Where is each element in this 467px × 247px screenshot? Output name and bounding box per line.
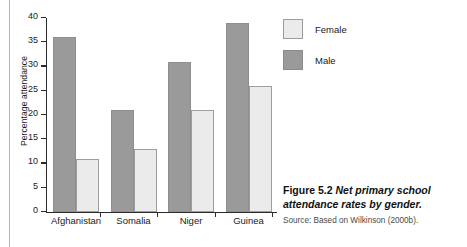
bar-female-niger	[191, 110, 214, 212]
x-axis-line	[46, 212, 277, 213]
y-axis-label: Percentage attendance	[19, 31, 29, 171]
y-axis-tick: 35	[41, 41, 46, 42]
bar-female-guinea	[249, 86, 272, 212]
bar-male-afghanistan	[53, 37, 76, 212]
y-axis-tick: 5	[41, 187, 46, 188]
y-axis-tick-label: 20	[28, 108, 38, 119]
chart-legend: FemaleMale	[283, 19, 347, 81]
bar-male-niger	[168, 62, 191, 212]
y-axis-tick: 40	[41, 17, 46, 18]
y-axis-tick-label: 30	[28, 59, 38, 70]
bar-male-somalia	[111, 110, 134, 212]
legend-item-male: Male	[283, 50, 347, 70]
y-axis-tick-label: 15	[28, 132, 38, 143]
y-axis-tick-label: 35	[28, 35, 38, 46]
legend-item-female: Female	[283, 19, 347, 39]
bar-female-afghanistan	[76, 159, 99, 212]
y-axis-tick: 25	[41, 90, 46, 91]
figure-caption: Figure 5.2 Net primary school attendance…	[283, 184, 463, 226]
caption-title: Figure 5.2 Net primary school attendance…	[283, 184, 463, 211]
y-axis-tick-label: 10	[28, 156, 38, 167]
y-axis-tick: 10	[41, 162, 46, 163]
legend-label: Male	[315, 55, 336, 66]
y-axis-tick-label: 40	[28, 11, 38, 22]
y-axis-tick: 30	[41, 65, 46, 66]
plot-area: 0510152025303540	[46, 18, 276, 212]
legend-label: Female	[315, 24, 347, 35]
x-axis-category-label: Guinea	[209, 215, 289, 227]
y-axis-tick-label: 25	[28, 84, 38, 95]
bar-female-somalia	[134, 149, 157, 212]
y-axis-tick: 20	[41, 114, 46, 115]
legend-swatch-female	[283, 19, 303, 39]
caption-source: Source: Based on Wilkinson (2000b).	[283, 215, 463, 226]
bar-chart: Percentage attendance 0510152025303540 A…	[0, 0, 285, 247]
bar-male-guinea	[226, 23, 249, 212]
y-axis-tick-label: 5	[33, 181, 38, 192]
y-axis-tick: 0	[41, 211, 46, 212]
caption-figure-number: Figure 5.2	[283, 184, 333, 196]
y-axis-tick: 15	[41, 138, 46, 139]
legend-swatch-male	[283, 50, 303, 70]
